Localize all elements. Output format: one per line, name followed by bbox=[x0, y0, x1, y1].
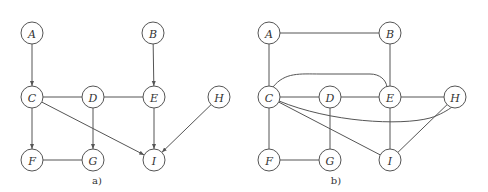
node-label: E bbox=[149, 92, 158, 105]
node-label: B bbox=[385, 28, 394, 41]
node-label: D bbox=[88, 92, 98, 105]
node-label: C bbox=[28, 92, 37, 105]
node-label: A bbox=[27, 28, 36, 41]
edge-h-i bbox=[398, 105, 447, 153]
node-label: I bbox=[387, 155, 393, 168]
edge-c-h bbox=[279, 101, 452, 122]
node-d: D bbox=[82, 86, 104, 108]
node-label: F bbox=[264, 155, 273, 168]
node-h: H bbox=[444, 86, 466, 108]
node-label: D bbox=[325, 92, 335, 105]
node-c: C bbox=[21, 86, 43, 108]
node-label: I bbox=[151, 155, 157, 168]
diagram-canvas: ABCDEHFGIABCDEHFGI a)b) bbox=[0, 0, 488, 192]
panel-a bbox=[32, 44, 211, 160]
node-e: E bbox=[143, 86, 165, 108]
node-label: C bbox=[265, 92, 274, 105]
node-label: A bbox=[264, 28, 273, 41]
panel-caption-a: a) bbox=[92, 175, 102, 186]
node-g: G bbox=[319, 149, 341, 171]
edge-h-i bbox=[162, 105, 211, 153]
node-label: F bbox=[27, 155, 36, 168]
node-d: D bbox=[319, 86, 341, 108]
node-a: A bbox=[258, 22, 280, 44]
node-label: H bbox=[449, 92, 460, 105]
node-i: I bbox=[379, 149, 401, 171]
node-label: G bbox=[326, 155, 335, 168]
node-a: A bbox=[21, 22, 43, 44]
node-b: B bbox=[379, 22, 401, 44]
node-e: E bbox=[379, 86, 401, 108]
node-f: F bbox=[258, 149, 280, 171]
node-label: G bbox=[89, 155, 98, 168]
nodes-layer: ABCDEHFGIABCDEHFGI bbox=[21, 22, 466, 171]
node-f: F bbox=[21, 149, 43, 171]
node-i: I bbox=[143, 149, 165, 171]
node-h: H bbox=[208, 86, 230, 108]
node-label: H bbox=[213, 92, 224, 105]
panel-caption-b: b) bbox=[331, 175, 341, 186]
edge-b-e bbox=[153, 44, 154, 86]
node-label: E bbox=[385, 92, 394, 105]
node-g: G bbox=[82, 149, 104, 171]
node-label: B bbox=[148, 28, 157, 41]
captions-layer: a)b) bbox=[92, 175, 341, 186]
node-b: B bbox=[142, 22, 164, 44]
edge-c-e bbox=[273, 74, 387, 87]
panel-b bbox=[269, 33, 452, 160]
node-c: C bbox=[258, 86, 280, 108]
